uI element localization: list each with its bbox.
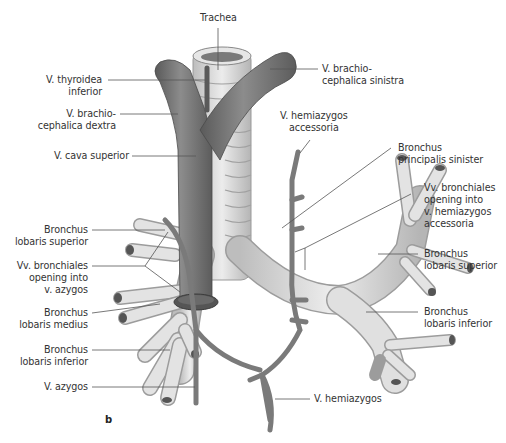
label-line: V. brachio- <box>322 63 404 75</box>
label-line: opening into <box>17 272 88 284</box>
label-line: accessoria <box>280 122 348 134</box>
label-line: cephalica dextra <box>38 120 116 132</box>
label-line: V. hemiazygos <box>314 393 382 405</box>
label-line: Bronchus <box>19 307 88 319</box>
label-line: principalis sinister <box>398 154 483 166</box>
label-line: lobaris superior <box>424 260 497 272</box>
label-line: V. hemiazygos <box>280 110 348 122</box>
label-v-brachiocephalica-sinistra: V. brachio- cephalica sinistra <box>322 63 404 87</box>
label-bronchus-principalis-sinister: Bronchus principalis sinister <box>398 142 483 166</box>
label-bronchus-lobaris-inferior-left: Bronchus lobaris inferior <box>424 306 492 330</box>
label-v-hemiazygos: V. hemiazygos <box>314 393 382 405</box>
label-v-azygos: V. azygos <box>44 381 88 393</box>
label-line: lobaris inferior <box>20 356 88 368</box>
label-line: cephalica sinistra <box>322 75 404 87</box>
label-line: V. cava superior <box>54 150 129 162</box>
label-line: Bronchus <box>424 248 497 260</box>
label-line: V. azygos <box>44 381 88 393</box>
label-line: Bronchus <box>15 224 88 236</box>
label-line: Bronchus <box>398 142 483 154</box>
label-bronchus-lobaris-inferior-right: Bronchus lobaris inferior <box>20 344 88 368</box>
label-vv-bronchiales-azygos: Vv. bronchiales opening into v. azygos <box>17 260 88 296</box>
label-line: V. brachio- <box>38 108 116 120</box>
label-line: V. thyroidea <box>46 74 102 86</box>
label-vv-bronchiales-hemiazygos: Vv. bronchiales opening into v. hemiazyg… <box>424 182 495 230</box>
label-bronchus-lobaris-superior-left: Bronchus lobaris superior <box>424 248 497 272</box>
label-line: v. hemiazygos <box>424 206 495 218</box>
label-line: lobaris superior <box>15 236 88 248</box>
label-v-thyroidea-inferior: V. thyroidea inferior <box>46 74 102 98</box>
label-line: lobaris inferior <box>424 318 492 330</box>
label-v-brachiocephalica-dextra: V. brachio- cephalica dextra <box>38 108 116 132</box>
anatomy-figure: Trachea V. thyroidea inferior V. brachio… <box>0 0 506 443</box>
label-line: Vv. bronchiales <box>424 182 495 194</box>
label-line: Bronchus <box>20 344 88 356</box>
label-trachea: Trachea <box>200 12 237 24</box>
label-line: accessoria <box>424 218 495 230</box>
label-v-hemiazygos-accessoria: V. hemiazygos accessoria <box>280 110 348 134</box>
label-line: opening into <box>424 194 495 206</box>
label-v-cava-superior: V. cava superior <box>54 150 129 162</box>
panel-letter: b <box>105 414 112 425</box>
label-line: Trachea <box>200 12 237 24</box>
label-bronchus-lobaris-medius: Bronchus lobaris medius <box>19 307 88 331</box>
label-line: Bronchus <box>424 306 492 318</box>
label-line: Vv. bronchiales <box>17 260 88 272</box>
label-line: inferior <box>46 86 102 98</box>
label-line: lobaris medius <box>19 319 88 331</box>
label-line: v. azygos <box>17 284 88 296</box>
label-bronchus-lobaris-superior-right: Bronchus lobaris superior <box>15 224 88 248</box>
